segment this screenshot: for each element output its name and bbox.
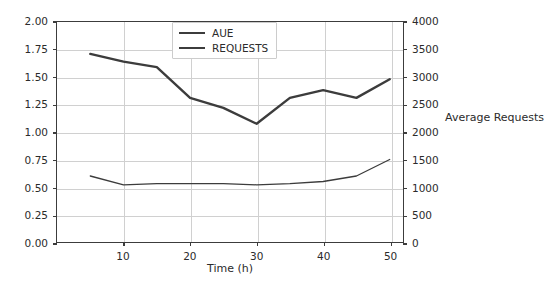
x-tick-label: 40 — [317, 250, 330, 262]
x-tick — [257, 242, 258, 246]
x-tick-label: 30 — [250, 250, 263, 262]
x-tick — [190, 242, 191, 246]
y-tick-label-left: 0.50 — [0, 182, 48, 194]
y-tick-right — [403, 188, 407, 189]
y-tick-label-left: 2.00 — [0, 15, 48, 27]
y-tick-right — [403, 77, 407, 78]
y-axis-label-right-text: Average Requests — [445, 111, 544, 124]
y-tick-label-right: 4000 — [412, 15, 439, 27]
y-tick-right — [403, 21, 407, 22]
series-line-requests — [90, 54, 389, 124]
y-tick-right — [403, 105, 407, 106]
y-tick-label-left: 1.25 — [0, 98, 48, 110]
y-tick-label-left: 0.75 — [0, 154, 48, 166]
legend-item-requests: REQUESTS — [179, 42, 268, 54]
y-axis-label-right: Average Requests — [437, 0, 453, 222]
y-tick-label-right: 500 — [412, 209, 432, 221]
y-tick-label-right: 3000 — [412, 71, 439, 83]
x-tick — [391, 242, 392, 246]
x-tick-label: 20 — [183, 250, 196, 262]
legend-label-requests: REQUESTS — [212, 42, 268, 54]
y-tick-label-right: 2500 — [412, 98, 439, 110]
y-tick-label-left: 1.50 — [0, 71, 48, 83]
figure-caption — [0, 289, 463, 300]
y-tick-label-right: 3500 — [412, 43, 439, 55]
y-tick-label-left: 0.00 — [0, 237, 48, 249]
y-tick-right — [403, 160, 407, 161]
y-tick-right — [403, 132, 407, 133]
y-tick-label-left: 1.75 — [0, 43, 48, 55]
y-tick-right — [403, 216, 407, 217]
legend-item-aue: AUE — [179, 27, 268, 39]
chart-legend: AUE REQUESTS — [172, 22, 277, 59]
series-line-aue — [90, 160, 389, 185]
x-tick-label: 50 — [384, 250, 397, 262]
y-tick-right — [403, 243, 407, 244]
y-tick-label-right: 0 — [412, 237, 419, 249]
x-axis-label: Time (h) — [56, 262, 404, 275]
y-tick-label-right: 1000 — [412, 182, 439, 194]
legend-swatch-requests — [179, 47, 205, 49]
legend-swatch-aue — [179, 32, 205, 33]
y-tick-label-left: 1.00 — [0, 126, 48, 138]
y-tick-label-right: 2000 — [412, 126, 439, 138]
y-tick-label-right: 1500 — [412, 154, 439, 166]
x-tick — [324, 242, 325, 246]
y-tick-label-left: 0.25 — [0, 209, 48, 221]
legend-label-aue: AUE — [212, 27, 234, 39]
x-tick-label: 10 — [116, 250, 129, 262]
y-tick-right — [403, 49, 407, 50]
x-tick — [123, 242, 124, 246]
y-tick-left — [53, 243, 57, 244]
